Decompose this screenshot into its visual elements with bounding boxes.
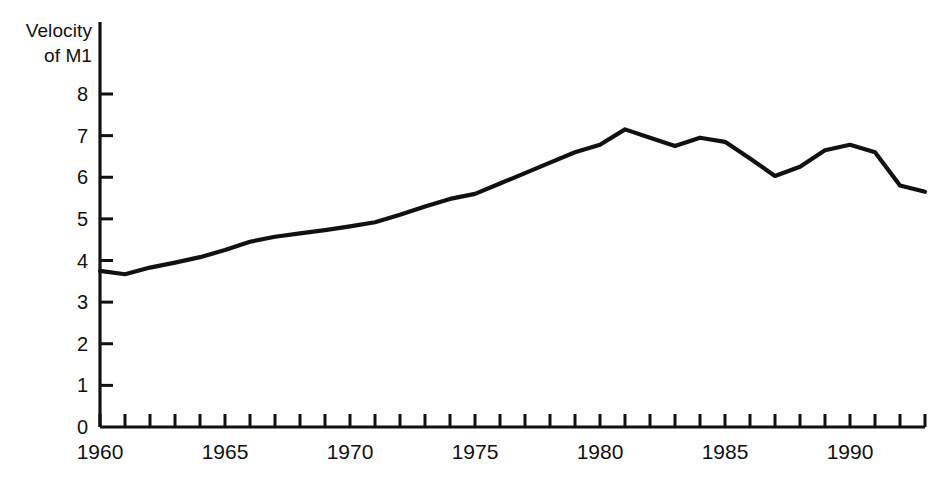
y-axis-label-5: 5 — [52, 209, 88, 229]
y-axis-label-4: 4 — [52, 251, 88, 271]
x-axis-label-1985: 1985 — [685, 441, 765, 462]
y-axis-label-3: 3 — [52, 292, 88, 312]
y-axis-label-0: 0 — [52, 417, 88, 437]
x-axis-label-1965: 1965 — [185, 441, 265, 462]
chart-plot-area — [0, 0, 943, 499]
x-axis-ticks — [100, 414, 925, 427]
y-axis-label-2: 2 — [52, 334, 88, 354]
y-axis-label-7: 7 — [52, 126, 88, 146]
x-axis-label-1980: 1980 — [560, 441, 640, 462]
axis-lines — [100, 22, 925, 427]
x-axis-label-1970: 1970 — [310, 441, 390, 462]
x-axis-label-1990: 1990 — [810, 441, 890, 462]
y-axis-label-6: 6 — [52, 167, 88, 187]
y-axis-ticks — [100, 94, 113, 385]
velocity-of-m1-chart: Velocity of M1 012345678 196019651970197… — [0, 0, 943, 499]
y-axis-label-1: 1 — [52, 375, 88, 395]
x-axis-label-1975: 1975 — [435, 441, 515, 462]
x-axis-label-1960: 1960 — [60, 441, 140, 462]
velocity-data-line — [100, 129, 925, 274]
y-axis-label-8: 8 — [52, 84, 88, 104]
